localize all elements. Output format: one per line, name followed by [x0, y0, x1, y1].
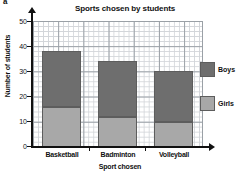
bar-segment-badminton-boys: [98, 61, 137, 116]
y-axis-tick: [27, 121, 33, 122]
x-axis-line: [31, 146, 211, 148]
y-axis-tick: [27, 71, 33, 72]
y-axis-tick: [27, 46, 33, 47]
y-tick-text: 10: [9, 118, 27, 125]
legend-item-girls: Girls: [200, 96, 241, 111]
bar-segment-volleyball-boys: [154, 71, 193, 121]
y-axis-title: Number of students: [4, 23, 12, 109]
y-axis-tick: [27, 21, 33, 22]
bar-segment-basketball-boys: [42, 51, 81, 106]
y-axis-tick-label-0: 0: [5, 143, 27, 150]
x-axis-category-label-basketball: Basketball: [33, 151, 91, 159]
y-tick-text: 0: [9, 143, 27, 150]
y-axis-tick: [27, 146, 33, 147]
chart-figure: a Sports chosen by students 0 10 20 30 4…: [0, 0, 241, 173]
bar-segment-volleyball-girls: [154, 122, 193, 147]
legend-label-girls: Girls: [218, 100, 234, 108]
y-axis-tick-label-10: 10: [5, 118, 27, 125]
x-axis-title: Sport chosen: [60, 163, 180, 171]
x-axis-category-label-badminton: Badminton: [89, 151, 147, 159]
bar-segment-badminton-girls: [98, 117, 137, 147]
legend-swatch-boys: [200, 62, 215, 77]
legend-label-boys: Boys: [218, 66, 235, 74]
y-axis-arrow-icon: [28, 7, 36, 13]
x-axis-arrow-icon: [209, 143, 215, 151]
legend-swatch-girls: [200, 96, 215, 111]
question-letter-label: a: [3, 0, 7, 6]
legend-item-boys: Boys: [200, 62, 241, 77]
chart-legend: Boys Girls: [200, 62, 241, 124]
y-axis-tick: [27, 96, 33, 97]
y-axis-line: [31, 12, 33, 148]
bar-segment-basketball-girls: [42, 107, 81, 147]
chart-title: Sports chosen by students: [60, 4, 190, 13]
x-axis-category-label-volleyball: Volleyball: [145, 151, 203, 159]
